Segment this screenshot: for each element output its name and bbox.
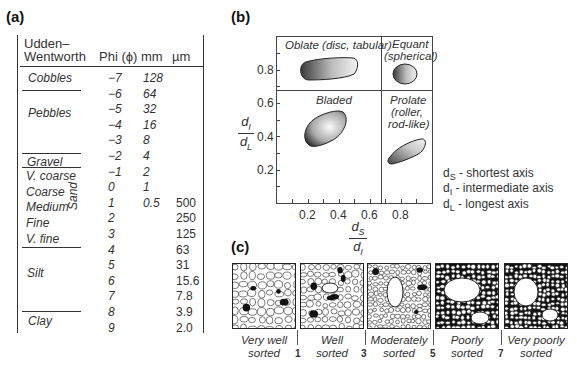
caption-very-well-2: sorted bbox=[232, 347, 296, 359]
divider-value-5: 5 bbox=[430, 348, 436, 359]
y-tick-0.2: 0.2 bbox=[257, 163, 274, 177]
divider-value-7: 7 bbox=[498, 348, 504, 359]
label-equant: Equant bbox=[392, 38, 428, 50]
oblate-shape bbox=[301, 58, 358, 80]
caption-poorly-2: sorted bbox=[435, 347, 499, 359]
equant-shape bbox=[393, 64, 417, 84]
divider-value-3: 3 bbox=[361, 348, 367, 359]
caption-moderately-2: sorted bbox=[365, 347, 433, 359]
caption-very-poorly-2: sorted bbox=[502, 347, 570, 359]
x-tick-0.2: 0.2 bbox=[299, 208, 316, 222]
x-axis-label: dS dI bbox=[349, 219, 367, 256]
caption-very-well-1: Very well bbox=[232, 334, 296, 346]
label-prolate: Prolate bbox=[390, 94, 426, 106]
caption-well-1: Well bbox=[300, 334, 364, 346]
x-tick-0.8: 0.8 bbox=[392, 208, 409, 222]
caption-poorly-1: Poorly bbox=[435, 334, 499, 346]
grain-textures bbox=[230, 262, 570, 334]
label-bladed: Bladed bbox=[316, 94, 352, 106]
label-rodlike: rod-like) bbox=[388, 118, 430, 130]
y-tick-0.8: 0.8 bbox=[257, 63, 274, 77]
y-axis-label: dI dL bbox=[238, 114, 254, 151]
panel-c-label: (c) bbox=[231, 238, 249, 255]
label-spherical: (spherical) bbox=[384, 50, 438, 62]
prolate-shape bbox=[388, 139, 425, 164]
x-tick-0.4: 0.4 bbox=[330, 208, 347, 222]
y-tick-0.4: 0.4 bbox=[257, 130, 274, 144]
caption-moderately-1: Moderately bbox=[365, 334, 433, 346]
caption-very-poorly-1: Very poorly bbox=[502, 334, 570, 346]
label-oblate: Oblate (disc, tabular) bbox=[285, 39, 392, 51]
legend-longest: dL - longest axis bbox=[443, 199, 554, 214]
x-ticks bbox=[293, 199, 417, 203]
label-roller: (roller, bbox=[391, 106, 423, 118]
caption-well-2: sorted bbox=[300, 347, 364, 359]
axis-legend: dS - shortest axis dI - intermediate axi… bbox=[443, 168, 554, 214]
y-tick-0.6: 0.6 bbox=[257, 96, 274, 110]
bladed-shape bbox=[305, 111, 346, 146]
divider-value-1: 1 bbox=[295, 348, 301, 359]
